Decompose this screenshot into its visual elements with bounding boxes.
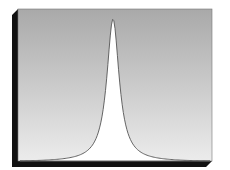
diagram-canvas bbox=[0, 0, 230, 170]
resonance-diagram bbox=[0, 0, 230, 170]
